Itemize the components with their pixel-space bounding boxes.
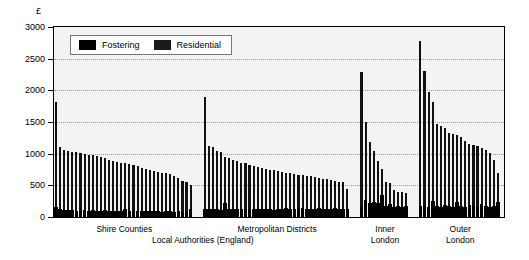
legend-label-fostering: Fostering	[102, 41, 140, 50]
x-axis-title: Local Authorities (England)	[55, 235, 350, 245]
bar-segment-residential	[79, 153, 81, 217]
y-tick-label-1500: 1500	[25, 117, 45, 127]
bar-segment-residential	[216, 151, 218, 217]
y-tick-label-500: 500	[30, 180, 45, 190]
bar	[345, 27, 349, 217]
y-tick-label-0: 0	[40, 212, 45, 222]
bar-segment-residential	[96, 156, 98, 217]
bar	[189, 27, 193, 217]
y-tick-label-2000: 2000	[25, 85, 45, 95]
bar-segment-residential	[112, 161, 114, 217]
group-gap	[408, 27, 418, 217]
inner-london-line2: London	[371, 235, 399, 245]
bar-segment-residential	[360, 72, 362, 217]
legend-item-fostering: Fostering	[79, 40, 140, 50]
bar-segment-residential	[228, 158, 230, 217]
y-tick-label-1000: 1000	[25, 149, 45, 159]
group-gap	[193, 27, 203, 217]
bar-segment-residential	[153, 171, 155, 217]
bar-segment-residential	[104, 158, 106, 217]
bar-segment-residential	[448, 133, 450, 217]
y-axis: 050010001500200025003000	[0, 26, 53, 218]
legend-item-residential: Residential	[154, 40, 222, 50]
bar	[404, 27, 408, 217]
bar-segment-residential	[440, 126, 442, 217]
bar-segment-residential	[128, 164, 130, 217]
bar-segment-residential	[145, 169, 147, 217]
inner-london-line1: Inner	[375, 224, 394, 234]
outer-london-line1: Outer	[450, 224, 471, 234]
bar-segment-fostering	[496, 202, 500, 217]
bar-segment-fostering	[404, 206, 408, 217]
bar-segment-residential	[423, 71, 425, 217]
bar-segment-residential	[132, 165, 134, 217]
bar-segment-fostering	[346, 209, 350, 217]
bar-group-0	[54, 27, 193, 217]
bar-segment-residential	[161, 173, 163, 217]
chart-legend: Fostering Residential	[70, 35, 232, 55]
bar-segment-residential	[137, 166, 139, 217]
bar-segment-residential	[432, 102, 434, 217]
plot-area: Fostering Residential	[53, 26, 505, 218]
bar-segment-residential	[108, 160, 110, 217]
x-group-label-shire-counties: Shire Counties	[55, 224, 194, 235]
chart-figure: £ 050010001500200025003000 Fostering Res…	[0, 0, 529, 260]
bar-segment-residential	[208, 146, 210, 217]
y-tick-label-2500: 2500	[25, 54, 45, 64]
bar-segment-residential	[212, 147, 214, 217]
bar-segment-residential	[116, 162, 118, 217]
bar-segment-residential	[436, 124, 438, 217]
legend-swatch-fostering	[79, 40, 96, 50]
bar	[496, 27, 500, 217]
bar-segment-residential	[444, 128, 446, 217]
legend-label-residential: Residential	[177, 41, 222, 50]
x-group-label-metropolitan-districts: Metropolitan Districts	[204, 224, 351, 235]
bar-group-1	[203, 27, 350, 217]
legend-swatch-residential	[154, 40, 171, 50]
bar-segment-residential	[88, 155, 90, 217]
bar-segment-residential	[419, 41, 421, 217]
y-tick-label-3000: 3000	[25, 22, 45, 32]
bar-segment-residential	[84, 154, 86, 217]
bar-segment-fostering	[189, 209, 193, 217]
bar-segment-residential	[204, 97, 206, 217]
y-axis-currency-label: £	[36, 6, 41, 16]
bar-segment-residential	[92, 155, 94, 217]
bar-segment-residential	[141, 168, 143, 217]
bar-group-3	[418, 27, 500, 217]
bar-segment-residential	[149, 170, 151, 218]
x-group-label-inner-london: Inner London	[360, 224, 409, 246]
bar-segment-residential	[63, 150, 65, 217]
bar-segment-residential	[452, 134, 454, 217]
bars-container	[54, 27, 504, 217]
bar-segment-residential	[55, 102, 57, 217]
outer-london-line2: London	[446, 235, 474, 245]
bar-group-2	[359, 27, 408, 217]
group-gap	[349, 27, 359, 217]
bar-segment-residential	[71, 152, 73, 217]
bar-segment-residential	[75, 152, 77, 217]
bar-segment-residential	[428, 92, 430, 217]
bar-segment-residential	[220, 152, 222, 217]
bar-segment-residential	[59, 147, 61, 217]
bar-segment-residential	[120, 163, 122, 217]
bar-segment-residential	[100, 157, 102, 217]
x-group-label-outer-london: Outer London	[419, 224, 501, 246]
bar-segment-residential	[67, 151, 69, 217]
